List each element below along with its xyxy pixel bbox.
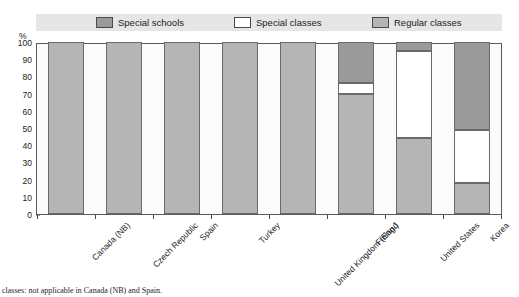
stacked-bar[interactable] xyxy=(280,44,317,214)
bar-segment xyxy=(454,130,491,183)
bar-slot xyxy=(95,44,153,214)
bar-series-container xyxy=(37,44,501,214)
y-axis-tick-label: 30 xyxy=(23,159,32,168)
chart-footnote: classes: not applicable in Canada (NB) a… xyxy=(2,286,162,295)
stacked-bar[interactable] xyxy=(396,44,433,214)
stacked-bar[interactable] xyxy=(106,44,143,214)
y-axis-tick-label: 90 xyxy=(23,56,32,65)
y-axis-tick-label: 50 xyxy=(23,125,32,134)
y-axis-tick-label: 70 xyxy=(23,90,32,99)
stacked-bar[interactable] xyxy=(454,44,491,214)
bar-segment xyxy=(222,42,259,214)
bar-slot xyxy=(443,44,501,214)
bar-slot xyxy=(269,44,327,214)
y-axis-tick-label: 10 xyxy=(23,194,32,203)
bar-segment xyxy=(164,42,201,214)
y-axis-tick-label: 100 xyxy=(18,39,32,48)
x-axis-tick-label: Korea xyxy=(489,221,511,243)
x-axis-tick-label: Turkey xyxy=(258,221,282,245)
y-axis-tick-label: 40 xyxy=(23,142,32,151)
x-axis-tick-label: Canada (NB) xyxy=(91,221,132,262)
bar-slot xyxy=(211,44,269,214)
y-axis-tick-label: 60 xyxy=(23,108,32,117)
bar-slot xyxy=(327,44,385,214)
bar-segment xyxy=(280,42,317,214)
chart-figure: % 1009080706050403020100 Canada (NB)Czec… xyxy=(0,0,519,297)
bar-segment xyxy=(454,183,491,214)
x-axis-tick-labels: Canada (NB)Czech RepublicSpainTurkeyUnit… xyxy=(36,215,502,285)
bar-segment xyxy=(396,138,433,214)
bar-slot xyxy=(385,44,443,214)
bar-segment xyxy=(106,42,143,214)
bar-slot xyxy=(153,44,211,214)
bar-segment xyxy=(338,42,375,83)
bar-segment xyxy=(338,94,375,214)
stacked-bar[interactable] xyxy=(48,44,85,214)
y-axis-tick-label: 20 xyxy=(23,176,32,185)
x-axis-tick-label: Spain xyxy=(198,221,219,242)
x-axis-tick-label: Finland xyxy=(374,221,400,247)
plot-area xyxy=(36,43,502,215)
bar-segment xyxy=(396,51,433,139)
bar-segment xyxy=(48,42,85,214)
bar-segment xyxy=(454,42,491,130)
x-axis-tick-label: Czech Republic xyxy=(151,221,199,269)
stacked-bar[interactable] xyxy=(164,44,201,214)
y-axis-tick-labels: 1009080706050403020100 xyxy=(0,43,32,215)
x-axis-tick-label: United States xyxy=(439,221,481,263)
y-axis-tick-label: 0 xyxy=(27,211,32,220)
bar-segment xyxy=(338,83,375,93)
stacked-bar[interactable] xyxy=(222,44,259,214)
stacked-bar[interactable] xyxy=(338,44,375,214)
bar-segment xyxy=(396,42,433,51)
bar-slot xyxy=(37,44,95,214)
y-axis-tick-label: 80 xyxy=(23,73,32,82)
